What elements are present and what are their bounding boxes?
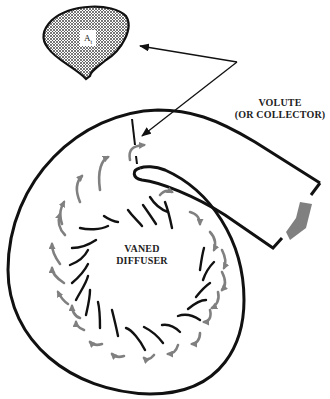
volute-label-line2: (OR COLLECTOR) [232, 109, 328, 121]
diffuser-label-line2: DIFFUSER [106, 255, 178, 267]
diffuser-vanes [70, 197, 214, 350]
pointer-arrows [140, 46, 237, 136]
discharge-arrow [286, 202, 312, 240]
volute-label: VOLUTE (OR COLLECTOR) [232, 97, 328, 121]
throat-line [132, 119, 135, 145]
diffuser-label: VANED DIFFUSER [106, 243, 178, 267]
diffuser-label-line1: VANED [106, 243, 178, 255]
throat-area-label: At [80, 30, 96, 46]
volute-label-line1: VOLUTE [232, 97, 328, 109]
volute-diagram [0, 0, 330, 399]
throat-dash [136, 156, 137, 164]
area-subscript: t [90, 39, 92, 45]
